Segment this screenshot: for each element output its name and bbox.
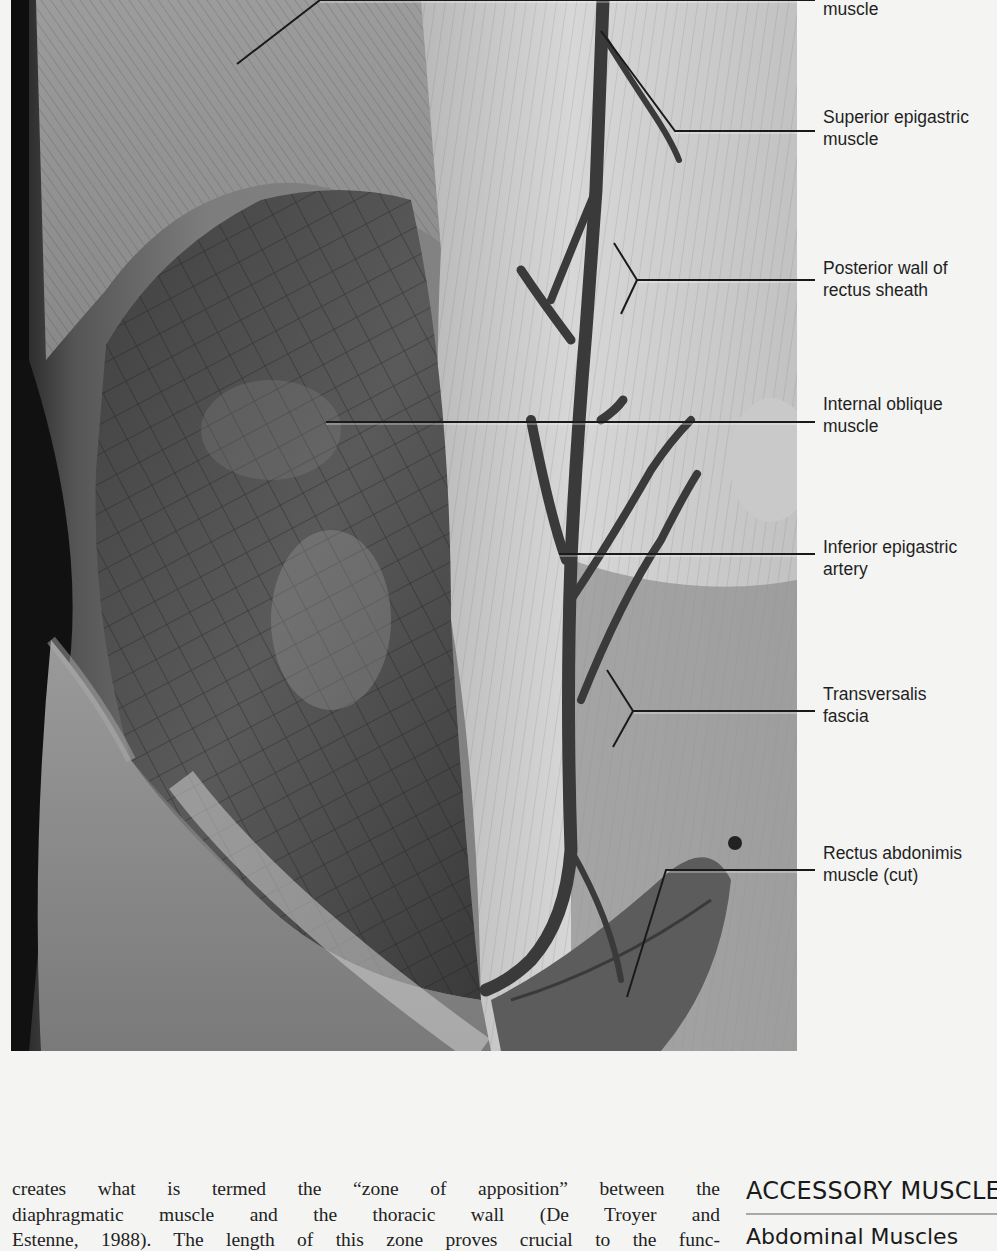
label-superior-epigastric: Superior epigastric muscle <box>823 106 969 150</box>
label-line: muscle <box>823 415 943 437</box>
label-posterior-wall: Posterior wall of rectus sheath <box>823 257 948 301</box>
label-line: Posterior wall of <box>823 257 948 279</box>
label-line: fascia <box>823 705 926 727</box>
label-line: Superior epigastric <box>823 106 969 128</box>
label-internal-oblique: Internal oblique muscle <box>823 393 943 437</box>
subsection-heading: Abdominal Muscles <box>746 1224 958 1249</box>
section-divider <box>746 1213 997 1215</box>
body-paragraph: creates what is termed the “zone of appo… <box>12 1176 720 1251</box>
label-transversalis: Transversalis fascia <box>823 683 926 727</box>
label-line: Transversalis <box>823 683 926 705</box>
label-inferior-epigastric: Inferior epigastric artery <box>823 536 957 580</box>
label-external-oblique: muscle <box>823 0 878 20</box>
label-line: Inferior epigastric <box>823 536 957 558</box>
label-line: rectus sheath <box>823 279 948 301</box>
label-line: Rectus abdonimis <box>823 842 962 864</box>
body-line: Estenne, 1988). The length of this zone … <box>12 1227 720 1251</box>
body-line: diaphragmatic muscle and the thoracic wa… <box>12 1202 720 1228</box>
dissection-photo <box>11 0 797 1051</box>
section-heading: ACCESSORY MUSCLES <box>746 1177 997 1205</box>
body-line: creates what is termed the “zone of appo… <box>12 1176 720 1202</box>
label-rectus-abdominis: Rectus abdonimis muscle (cut) <box>823 842 962 886</box>
label-line: muscle (cut) <box>823 864 962 886</box>
dissection-illustration <box>11 0 797 1051</box>
label-line: Internal oblique <box>823 393 943 415</box>
label-line: artery <box>823 558 957 580</box>
label-line: muscle <box>823 128 969 150</box>
label-line: muscle <box>823 0 878 20</box>
